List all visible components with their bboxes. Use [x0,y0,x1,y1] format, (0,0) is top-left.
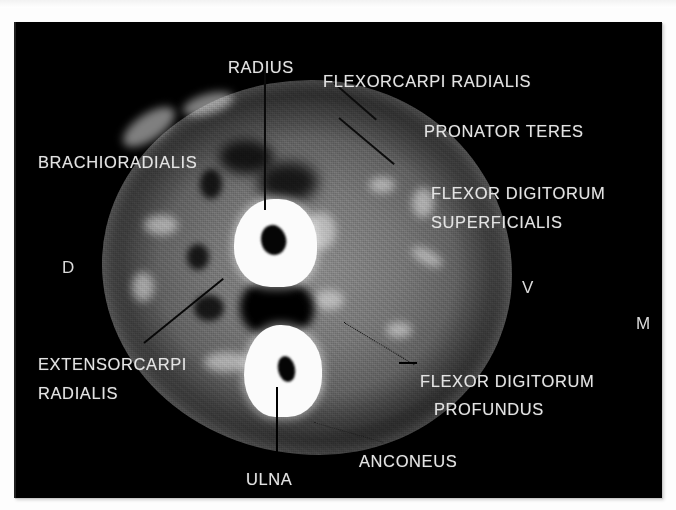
leader-line-ulna [276,387,278,462]
plate-edge-seam [14,22,16,498]
label-ulna: ULNA [246,470,292,489]
orientation-marker-ventral: V [522,278,534,298]
label-radius: RADIUS [228,58,294,77]
orientation-marker-medial: M [636,314,651,334]
orientation-marker-dorsal: D [62,258,75,278]
label-flexor-carpi-radialis: FLEXORCARPI RADIALIS [323,72,531,91]
label-flexor-digitorum-profundus-line1: FLEXOR DIGITORUM [420,372,594,391]
label-flexor-digitorum-superficialis-line1: FLEXOR DIGITORUM [431,184,605,203]
label-flexor-digitorum-superficialis-line2: SUPERFICIALIS [431,213,563,232]
leader-arrowhead-ulna [272,458,282,467]
label-pronator-teres: PRONATOR TERES [424,122,584,141]
label-extensor-carpi-radialis-line2: RADIALIS [38,384,118,403]
leader-line-profundus-elbow [399,362,417,364]
label-extensor-carpi-radialis-line1: EXTENSORCARPI [38,355,187,374]
page-background: RADIUS FLEXORCARPI RADIALIS PRONATOR TER… [0,0,676,510]
leader-line-radius [264,70,266,210]
radiograph-plate: RADIUS FLEXORCARPI RADIALIS PRONATOR TER… [14,22,662,498]
label-anconeus: ANCONEUS [359,452,457,471]
label-brachioradialis: BRACHIORADIALIS [38,153,197,172]
label-flexor-digitorum-profundus-line2: PROFUNDUS [434,400,544,419]
